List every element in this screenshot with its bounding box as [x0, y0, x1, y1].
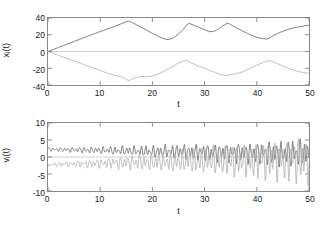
chart-panel-top: 40200-20-40 01020304050 t xi(t) [0, 0, 324, 112]
x-tick-label: 10 [95, 194, 104, 204]
x-tick-label: 0 [45, 194, 50, 204]
x-tick-label: 0 [45, 88, 50, 98]
x-axis-label-bottom: t [47, 206, 310, 216]
figure-canvas: 40200-20-40 01020304050 t xi(t) 1050-5-1… [0, 0, 324, 225]
y-tick-label: 10 [1, 119, 45, 128]
y-axis-label-bottom: vi(t) [2, 135, 13, 175]
plot-lines-bottom [48, 123, 309, 191]
x-tick-label: 40 [253, 88, 262, 98]
y-tick-label: -10 [1, 189, 45, 198]
data-series-x_upper [48, 21, 309, 51]
x-tick-label: 50 [305, 88, 314, 98]
x-tick-label: 20 [147, 88, 156, 98]
x-tick-label: 40 [253, 194, 262, 204]
chart-panel-bottom: 1050-5-10 01020304050 t vi(t) [0, 110, 324, 225]
x-tick-label: 30 [200, 194, 209, 204]
x-tick-label: 50 [305, 194, 314, 204]
x-tick-label: 30 [200, 88, 209, 98]
plot-area-bottom [47, 122, 310, 192]
x-axis-label-top: t [47, 99, 310, 109]
y-tick-label: 40 [1, 14, 45, 23]
y-tick-label: -40 [1, 83, 45, 92]
plot-lines-top [48, 18, 309, 85]
data-series-x_lower [48, 52, 309, 81]
x-tick-label: 10 [95, 88, 104, 98]
x-tick-label: 20 [147, 194, 156, 204]
plot-area-top [47, 17, 310, 86]
data-series-v_dark [48, 139, 309, 167]
y-axis-label-top: xi(t) [2, 30, 13, 70]
x-axis-ticks-bottom: 01020304050 [47, 194, 310, 206]
